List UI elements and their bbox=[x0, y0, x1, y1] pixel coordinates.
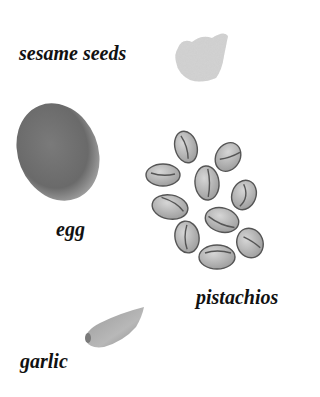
sesame-seeds-image bbox=[172, 30, 232, 86]
garlic-label: garlic bbox=[20, 350, 68, 373]
egg-label: egg bbox=[56, 218, 85, 241]
egg-image bbox=[12, 100, 104, 204]
pistachios-image bbox=[140, 125, 270, 275]
pistachios-label: pistachios bbox=[196, 286, 278, 309]
garlic-image bbox=[80, 305, 150, 353]
sesame-seeds-label: sesame seeds bbox=[19, 42, 126, 65]
